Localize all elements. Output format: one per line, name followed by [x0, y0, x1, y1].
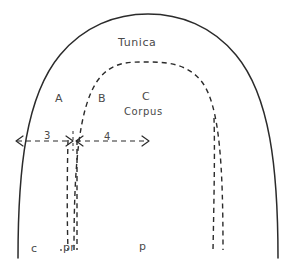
tunica-outer-arch: [18, 14, 278, 258]
measure-label-4: 4: [104, 131, 110, 142]
zone-label-a: A: [55, 92, 63, 105]
base-label-pr: pr: [63, 241, 75, 254]
tunica-label: Tunica: [118, 36, 156, 49]
zone-label-b: B: [98, 92, 106, 105]
pr-marker-dot: [60, 249, 62, 251]
zone-label-c: C: [142, 90, 150, 103]
base-label-c: c: [31, 242, 37, 255]
diagram-canvas: Tunica Corpus A B C 3 4 c pr p: [0, 0, 296, 262]
measure-label-3: 3: [44, 130, 50, 141]
measure-3-arrowhead-right: [66, 136, 73, 146]
corpus-label: Corpus: [124, 106, 163, 117]
corpus-inner-arch-secondary: [213, 118, 214, 250]
left-boundary-dashed-outer: [67, 140, 68, 250]
base-label-p: p: [139, 240, 146, 253]
